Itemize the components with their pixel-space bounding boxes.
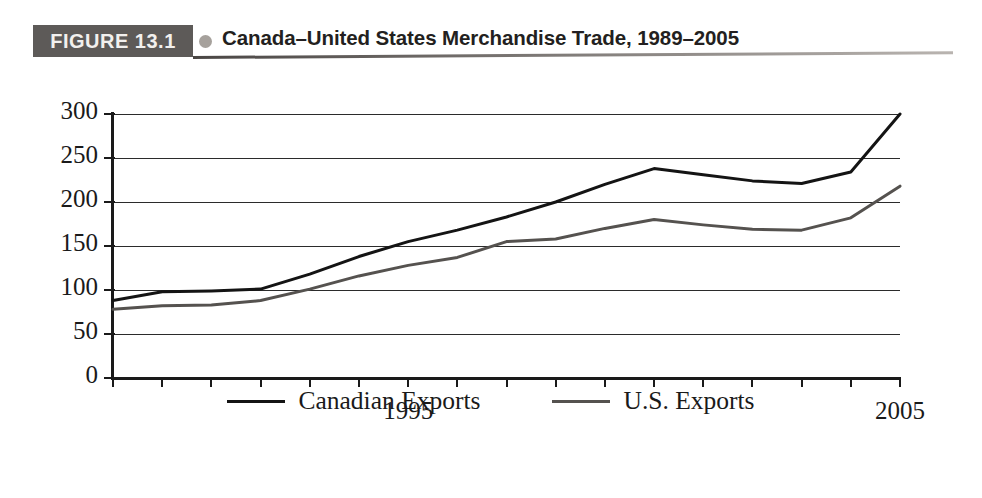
legend-line-swatch <box>227 400 285 403</box>
y-axis-tick-label: 50 <box>28 317 98 345</box>
data-series-line <box>113 114 900 301</box>
y-axis-tick-label: 150 <box>28 229 98 257</box>
figure-header: FIGURE 13.1 Canada–United States Merchan… <box>0 0 982 72</box>
y-axis-tick-label: 100 <box>28 273 98 301</box>
series-layer <box>0 72 982 498</box>
y-axis-tick-label: 300 <box>28 97 98 125</box>
figure-number-label: FIGURE 13.1 <box>50 30 176 53</box>
y-axis-tick <box>104 113 115 115</box>
chart-legend: Canadian ExportsU.S. Exports <box>0 378 982 424</box>
bullet-circle-icon <box>199 35 212 48</box>
header-divider <box>193 51 953 59</box>
y-axis-tick <box>104 157 115 159</box>
y-axis-tick <box>104 201 115 203</box>
y-axis-tick <box>104 245 115 247</box>
legend-label: U.S. Exports <box>623 386 754 416</box>
y-axis-tick-label: 250 <box>28 141 98 169</box>
chart-area: 05010015020025030019952005 <box>0 72 982 498</box>
y-axis-tick <box>104 333 115 335</box>
figure-title: Canada–United States Merchandise Trade, … <box>222 26 739 50</box>
y-axis-tick-label: 200 <box>28 185 98 213</box>
figure-number-badge: FIGURE 13.1 <box>33 25 193 57</box>
legend-entry: Canadian Exports <box>227 386 480 416</box>
y-axis-tick <box>104 289 115 291</box>
legend-entry: U.S. Exports <box>552 386 754 416</box>
legend-line-swatch <box>552 400 610 403</box>
legend-label: Canadian Exports <box>298 386 480 416</box>
